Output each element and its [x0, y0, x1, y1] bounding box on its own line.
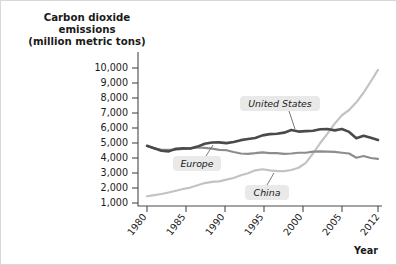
- series-callout-china: China: [245, 173, 289, 200]
- y-tick-label-8000: 8,000: [101, 92, 128, 103]
- x-tick-label-1980: 1980: [125, 211, 149, 237]
- co2-emissions-line-chart: Carbon dioxide emissions (million metric…: [1, 1, 397, 265]
- x-tick-label-1995: 1995: [242, 211, 266, 237]
- series-label-united-states: United States: [248, 98, 312, 109]
- x-tick-label-1985: 1985: [164, 211, 188, 237]
- y-tick-label-6000: 6,000: [101, 122, 128, 133]
- x-tick-label-2012: 2012: [358, 211, 382, 237]
- y-axis-title-line-1: Carbon dioxide: [44, 12, 131, 23]
- data-line-united-states: [147, 129, 378, 151]
- series-label-china: China: [254, 187, 281, 198]
- x-tick-label-2005: 2005: [320, 211, 344, 237]
- chart-figure: Carbon dioxide emissions (million metric…: [0, 0, 397, 265]
- y-tick-label-1000: 1,000: [101, 197, 128, 208]
- y-axis-title-line-3: (million metric tons): [28, 36, 145, 47]
- x-axis-title: Year: [353, 245, 378, 256]
- y-tick-label-5000: 5,000: [101, 137, 128, 148]
- series-callout-united-states: United States: [240, 96, 320, 129]
- x-tick-label-2000: 2000: [281, 211, 305, 237]
- y-tick-label-3000: 3,000: [101, 167, 128, 178]
- series-label-europe: Europe: [180, 158, 213, 169]
- y-tick-label-2000: 2,000: [101, 182, 128, 193]
- y-tick-label-4000: 4,000: [101, 152, 128, 163]
- x-axis-ticks: [147, 206, 378, 212]
- y-axis-title-line-2: emissions: [59, 24, 116, 35]
- y-tick-label-10000: 10,000: [94, 62, 128, 73]
- y-tick-label-7000: 7,000: [101, 107, 128, 118]
- y-tick-label-9000: 9,000: [101, 77, 128, 88]
- data-line-china: [147, 70, 378, 196]
- x-tick-label-1990: 1990: [203, 211, 227, 237]
- axis-lines: [138, 52, 382, 206]
- y-axis-ticks: [132, 68, 138, 203]
